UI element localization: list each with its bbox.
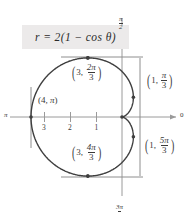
- point-theta-numerator: 4π: [86, 143, 97, 152]
- polar-cardioid-figure: r = 2(1 − cos θ) π 0 π 2 3π 2 3 2 1 ( 1 …: [0, 0, 194, 212]
- three-half-pi-denominator: 2: [118, 211, 122, 212]
- paren-open: (: [72, 145, 75, 161]
- paren-close: ): [169, 73, 172, 89]
- paren-close: ): [171, 138, 174, 154]
- half-pi-denominator: 2: [119, 23, 123, 31]
- tick-label-1: 1: [95, 124, 99, 132]
- paren-open: (: [72, 65, 75, 81]
- axis-label-half-pi: π 2: [119, 8, 123, 31]
- paren-close: ): [98, 65, 101, 81]
- point-theta-denominator: 3: [161, 80, 168, 90]
- point-comma: ,: [156, 76, 161, 85]
- point-theta-denominator: 3: [88, 72, 95, 82]
- tick-label-3: 3: [42, 124, 46, 132]
- three-half-pi-numerator: 3π: [116, 204, 123, 211]
- paren-close: ): [55, 96, 58, 105]
- point-label-1-pi-3: ( 1 , π 3 ): [146, 71, 173, 90]
- tick-label-2: 2: [68, 124, 72, 132]
- point-label-1-5pi-3: ( 1 , 5π 3 ): [144, 136, 176, 155]
- axis-label-zero: 0: [180, 112, 184, 119]
- point-theta-numerator: 2π: [86, 63, 97, 72]
- point-theta-numerator: 5π: [159, 136, 170, 145]
- point-comma: ,: [81, 148, 86, 157]
- point-theta-numerator: π: [161, 71, 168, 80]
- paren-open: (: [145, 138, 148, 154]
- point-label-4-pi: ( 4 , π ): [38, 96, 58, 105]
- point-label-3-4pi-3: ( 3 , 4π 3 ): [71, 143, 103, 162]
- paren-close: ): [98, 145, 101, 161]
- point-comma: ,: [81, 68, 86, 77]
- paren-open: (: [147, 73, 150, 89]
- axis-label-pi: π: [4, 112, 8, 119]
- point-comma: ,: [154, 141, 159, 150]
- point-theta-denominator: 3: [161, 145, 168, 155]
- half-pi-numerator: π: [119, 16, 123, 23]
- point-theta-denominator: 3: [88, 152, 95, 162]
- equation-label: r = 2(1 − cos θ): [22, 25, 129, 49]
- point-label-3-2pi-3: ( 3 , 2π 3 ): [71, 63, 103, 82]
- axis-label-three-half-pi: 3π 2: [116, 196, 123, 212]
